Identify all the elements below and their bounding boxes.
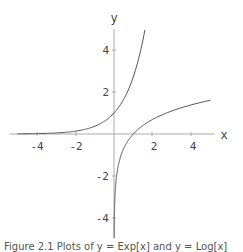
y-tick-label: -2 bbox=[96, 170, 109, 183]
y-tick-label: 4 bbox=[102, 44, 109, 57]
x-tick-label: 4 bbox=[190, 140, 197, 153]
y-tick-label: -4 bbox=[96, 212, 110, 225]
y-tick-label: 2 bbox=[102, 86, 109, 99]
x-tick-label: -2 bbox=[69, 140, 82, 153]
exp-curve bbox=[18, 30, 145, 134]
x-tick-label: -4 bbox=[30, 140, 44, 153]
x-tick-label: 2 bbox=[151, 140, 158, 153]
log-curve bbox=[114, 100, 210, 238]
figure-caption: Figure 2.1 Plots of y = Exp[x] and y = L… bbox=[4, 241, 227, 252]
y-axis-label: y bbox=[110, 11, 117, 25]
x-axis-label: x bbox=[220, 128, 227, 142]
